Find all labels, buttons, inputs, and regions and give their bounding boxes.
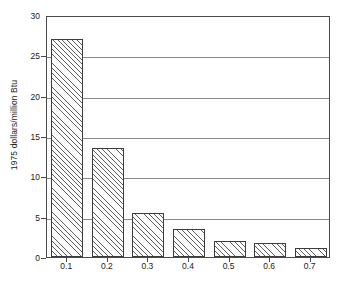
chart-title-fragment xyxy=(120,0,320,4)
x-tick-mark xyxy=(229,258,230,262)
bar xyxy=(254,243,286,257)
bar xyxy=(51,39,83,257)
x-tick-label: 0.1 xyxy=(46,262,86,271)
bar-chart: 1975 dollars/million Btu 051015202530 0.… xyxy=(0,0,346,287)
bar xyxy=(132,213,164,257)
y-tick-label: 0 xyxy=(14,254,40,263)
x-tick-mark xyxy=(188,258,189,262)
y-tick-label: 20 xyxy=(14,93,40,102)
y-tick-label: 25 xyxy=(14,52,40,61)
y-tick-label: 5 xyxy=(14,214,40,223)
x-tick-mark xyxy=(107,258,108,262)
x-tick-mark xyxy=(66,258,67,262)
x-tick-mark xyxy=(310,258,311,262)
plot-area xyxy=(46,16,330,258)
x-tick-label: 0.3 xyxy=(127,262,167,271)
x-tick-label: 0.2 xyxy=(87,262,127,271)
bar-series xyxy=(47,17,329,257)
bar xyxy=(92,148,124,257)
x-tick-mark xyxy=(269,258,270,262)
x-tick-label: 0.4 xyxy=(168,262,208,271)
bar xyxy=(173,229,205,257)
x-tick-mark xyxy=(147,258,148,262)
y-tick-mark xyxy=(41,258,46,259)
bar xyxy=(295,248,327,257)
y-tick-label: 10 xyxy=(14,173,40,182)
y-tick-label: 15 xyxy=(14,133,40,142)
bar xyxy=(214,241,246,257)
y-tick-label: 30 xyxy=(14,12,40,21)
x-tick-label: 0.6 xyxy=(249,262,289,271)
x-tick-label: 0.5 xyxy=(209,262,249,271)
x-tick-label: 0.7 xyxy=(290,262,330,271)
